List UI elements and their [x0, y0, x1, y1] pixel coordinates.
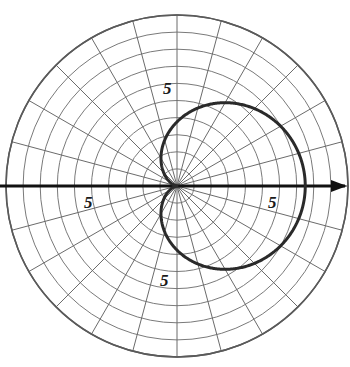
- grid-spoke-150: [29, 101, 177, 187]
- polar-plot-figure: 5 5 5 5: [0, 0, 350, 367]
- grid-spoke-240: [92, 186, 178, 334]
- grid-spoke-210: [29, 186, 177, 272]
- r-tick-label-top: 5: [163, 80, 172, 97]
- grid-spoke-105: [133, 21, 177, 186]
- grid-spoke-345: [177, 186, 342, 230]
- grid-spoke-15: [177, 142, 342, 186]
- polar-plot-canvas: [0, 0, 350, 367]
- grid-spoke-165: [12, 142, 177, 186]
- r-tick-label-bottom: 5: [160, 272, 169, 289]
- r-tick-label-right: 5: [268, 194, 277, 211]
- r-tick-label-left: 5: [84, 194, 93, 211]
- grid-spoke-120: [92, 38, 178, 186]
- axis-arrowhead: [331, 180, 347, 192]
- grid-spoke-255: [133, 186, 177, 351]
- grid-spoke-195: [12, 186, 177, 230]
